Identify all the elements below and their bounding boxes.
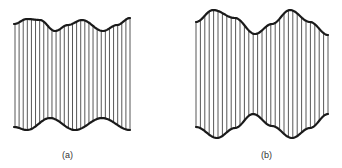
figure-a bbox=[14, 18, 130, 130]
figure-b-label: (b) bbox=[261, 150, 272, 160]
figure-b bbox=[196, 10, 328, 138]
figure-a-label: (a) bbox=[62, 150, 73, 160]
wave-diagram bbox=[0, 0, 342, 168]
top-curve-b bbox=[196, 10, 328, 35]
